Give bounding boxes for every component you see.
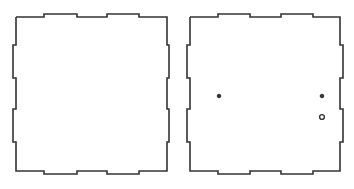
panel-right-outline: [187, 14, 343, 174]
panel-left: [13, 14, 169, 174]
panel-right: [187, 14, 343, 174]
mounting-hole-right: [320, 94, 324, 98]
open-hole-ring: [320, 115, 325, 120]
diagram-canvas: [0, 0, 354, 189]
panel-left-outline: [13, 14, 169, 174]
box-panels-drawing: [0, 0, 354, 189]
mounting-hole-left: [217, 94, 221, 98]
